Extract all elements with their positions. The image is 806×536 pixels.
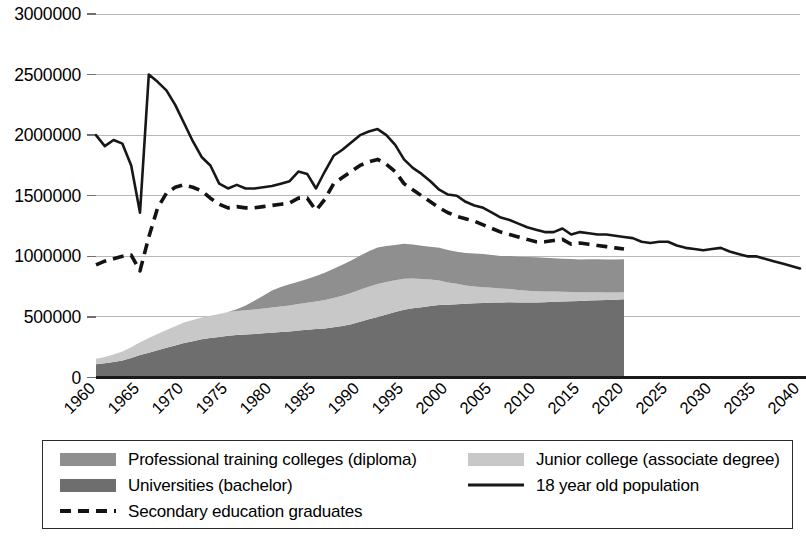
education-population-chart: 0500000100000015000002000000250000030000…: [0, 0, 806, 536]
legend-swatch: [60, 453, 116, 466]
y-tick-label: 3000000: [14, 4, 81, 24]
y-tick-label: 500000: [24, 307, 82, 327]
legend-label: Secondary education graduates: [128, 502, 362, 521]
y-tick-label: 1000000: [14, 246, 81, 266]
legend-label: 18 year old population: [536, 476, 699, 495]
chart-container: 0500000100000015000002000000250000030000…: [0, 0, 806, 536]
legend-swatch: [468, 453, 524, 466]
chart-legend: Professional training colleges (diploma)…: [43, 441, 793, 529]
y-tick-label: 1500000: [14, 186, 81, 206]
legend-label: Professional training colleges (diploma): [128, 450, 417, 469]
y-tick-label: 2500000: [14, 65, 81, 85]
legend-label: Universities (bachelor): [128, 476, 293, 495]
legend-label: Junior college (associate degree): [536, 450, 780, 469]
y-tick-label: 2000000: [14, 125, 81, 145]
legend-swatch: [60, 479, 116, 492]
